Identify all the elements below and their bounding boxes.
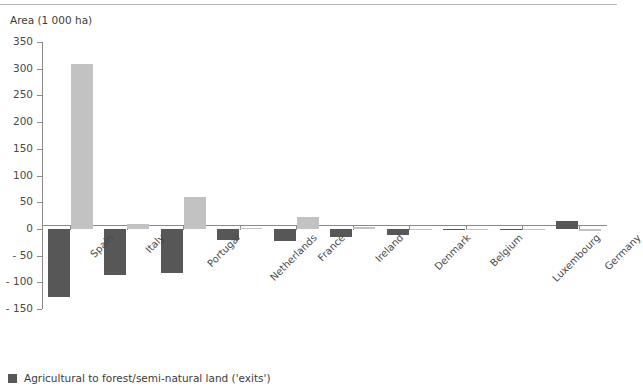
y-axis-tick-label: 250 [13,88,33,100]
bar-denmark-series2 [410,229,432,230]
bar-group [387,42,432,309]
bar-netherlands-series2 [240,228,262,229]
legend-label: Agricultural to forest/semi-natural land… [24,372,271,384]
y-axis-tick-label: 150 [13,142,33,154]
legend-swatch-icon [8,374,17,383]
bar-group [500,42,545,309]
bar-portugal-series2 [184,197,206,229]
bar-group [104,42,149,309]
y-axis-tick-label: 50 [20,195,33,207]
y-axis-tick: 150 [37,149,42,150]
y-axis-tick-label: 350 [13,35,33,47]
y-axis-line [42,42,43,309]
bar-france-series1 [274,229,296,241]
y-axis-tick-label: - 100 [6,275,33,287]
bar-ireland-series2 [353,227,375,229]
y-axis-tick: - 150 [37,309,42,310]
bar-germany-series1 [556,221,578,228]
bar-france-series2 [297,217,319,229]
y-axis-tick: 300 [37,69,42,70]
x-axis-label-germany: Germany [602,232,642,272]
chart-legend: Agricultural to forest/semi-natural land… [8,372,271,384]
bar-luxembourg-series2 [523,229,545,230]
y-axis-tick: 200 [37,122,42,123]
y-axis-tick: 0 [37,229,42,230]
y-axis-tick-label: - 50 [13,249,34,261]
bar-group [48,42,93,309]
bar-belgium-series2 [466,229,488,230]
chart-plot-area: 350300250200150100500- 50- 100- 150 Spai… [42,42,607,309]
y-axis-tick-label: 300 [13,62,33,74]
y-axis-tick-label: 100 [13,169,33,181]
y-axis-tick: - 50 [37,256,42,257]
y-axis-tick-label: 0 [26,222,33,234]
bar-group [330,42,375,309]
y-axis-tick-label: - 150 [6,302,33,314]
bar-spain-series1 [48,229,70,297]
y-axis-tick: 250 [37,95,42,96]
bar-germany-series2 [579,229,601,231]
top-divider [0,4,617,5]
y-axis-tick: 50 [37,202,42,203]
bar-group [217,42,262,309]
y-axis-tick: 350 [37,42,42,43]
bar-italy-series2 [127,224,149,229]
bar-group [443,42,488,309]
bar-spain-series2 [71,64,93,228]
bar-group [161,42,206,309]
legend-item[interactable]: Agricultural to forest/semi-natural land… [8,372,271,384]
y-axis-title: Area (1 000 ha) [10,14,92,26]
y-axis-tick: - 100 [37,282,42,283]
bar-portugal-series1 [161,229,183,273]
bar-belgium-series1 [443,229,465,230]
bar-luxembourg-series1 [500,229,522,230]
y-axis-tick: 100 [37,176,42,177]
y-axis-tick-label: 200 [13,115,33,127]
